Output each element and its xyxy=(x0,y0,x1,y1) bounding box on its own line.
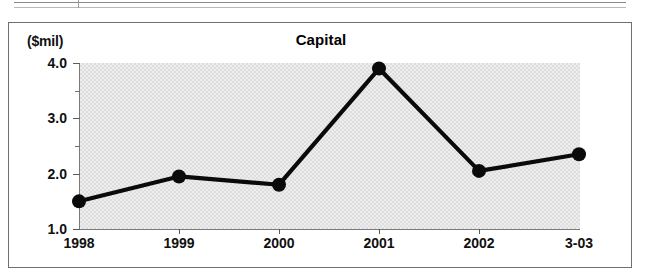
chart-title: Capital xyxy=(9,31,633,48)
x-tick-mark xyxy=(279,229,280,234)
x-axis-label: 2002 xyxy=(463,235,494,251)
table-rule-vertical-divider xyxy=(78,0,79,8)
y-tick-mark-major xyxy=(73,118,80,119)
y-tick-mark-minor xyxy=(75,91,80,92)
x-axis-label: 3-03 xyxy=(565,235,593,251)
y-tick-label: 4.0 xyxy=(9,55,67,71)
y-tick-mark-minor xyxy=(75,146,80,147)
y-tick-label: 3.0 xyxy=(9,110,67,126)
x-tick-mark xyxy=(379,229,380,234)
x-axis-label: 2000 xyxy=(263,235,294,251)
table-rule-horizontal-bottom xyxy=(14,7,626,8)
plot-area xyxy=(79,63,580,229)
y-tick-mark-minor xyxy=(75,201,80,202)
y-tick-label: 2.0 xyxy=(9,166,67,182)
chart-frame: ($mil) Capital 4.03.02.01.0 199819992000… xyxy=(8,22,632,268)
x-axis-label: 1998 xyxy=(63,235,94,251)
y-tick-mark-major xyxy=(73,174,80,175)
x-tick-mark xyxy=(479,229,480,234)
x-axis-baseline xyxy=(79,229,580,230)
x-axis-label: 2001 xyxy=(363,235,394,251)
y-tick-mark-major xyxy=(73,229,80,230)
x-axis-label: 1999 xyxy=(163,235,194,251)
table-rule-horizontal-top xyxy=(14,2,626,3)
y-tick-label: 1.0 xyxy=(9,221,67,237)
scanned-table-rule-fragment xyxy=(0,0,646,20)
x-tick-mark xyxy=(179,229,180,234)
y-tick-mark-major xyxy=(73,63,80,64)
